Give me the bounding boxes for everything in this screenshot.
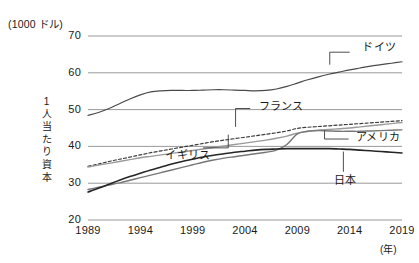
x-tick-label: 2004 bbox=[223, 224, 267, 236]
y-tick-label: 60 bbox=[55, 66, 81, 78]
x-tick-label: 1999 bbox=[171, 224, 215, 236]
y-tick-label: 70 bbox=[55, 29, 81, 41]
y-tick-label: 50 bbox=[55, 103, 81, 115]
series-label-united-kingdom: イギリス bbox=[165, 146, 210, 162]
series-line bbox=[88, 62, 402, 116]
series-line bbox=[88, 122, 402, 167]
x-tick-label: 2019 bbox=[380, 224, 419, 236]
series-label-leader bbox=[330, 52, 350, 65]
x-tick-label: 2014 bbox=[328, 224, 372, 236]
series-label-japan: 日本 bbox=[334, 171, 357, 187]
y-tick-label: 30 bbox=[55, 176, 81, 188]
x-tick-label: 2009 bbox=[275, 224, 319, 236]
series-label-leader bbox=[236, 109, 251, 127]
series-label-germany: ドイツ bbox=[362, 38, 396, 54]
x-tick-label: 1994 bbox=[118, 224, 162, 236]
x-axis-unit-label: (年) bbox=[380, 241, 397, 256]
chart-container: (1000 ドル) 1人当たり資本 203040506070 198919941… bbox=[0, 0, 419, 263]
x-tick-label: 1989 bbox=[66, 224, 110, 236]
y-tick-label: 40 bbox=[55, 139, 81, 151]
series-label-france: フランス bbox=[259, 97, 304, 113]
series-label-united-states: アメリカ bbox=[356, 128, 400, 144]
